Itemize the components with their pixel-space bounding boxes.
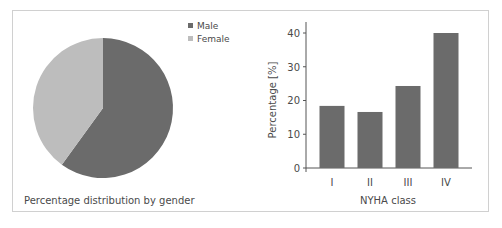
y-axis-label: Percentage [%] [267,62,278,139]
pie-caption: Percentage distribution by gender [24,195,195,206]
legend-swatch-female [188,36,193,41]
legend-swatch-male [188,23,193,28]
bar-III [396,86,421,168]
bars [320,33,459,168]
legend-label-female: Female [197,34,230,44]
bar-IV [434,33,459,168]
y-tick-label: 0 [294,163,300,174]
bar-I [320,106,345,168]
x-axis-label: NYHA class [360,195,416,206]
y-tick-label: 10 [287,129,300,140]
y-ticks: 0 10 20 30 40 [287,28,306,174]
pie-chart [33,38,173,178]
pie-legend: Male Female [188,21,230,44]
figure-canvas: Male Female Percentage distribution by g… [0,0,502,228]
y-tick-label: 30 [287,62,300,73]
bar-II [358,112,383,168]
x-tick-label: III [404,177,413,188]
y-tick-label: 40 [287,28,300,39]
x-tick-label: II [367,177,373,188]
x-tick-label: IV [441,177,451,188]
y-tick-label: 20 [287,95,300,106]
bar-chart: 0 10 20 30 40 I II III IV NYHA class Per… [267,22,472,206]
legend-label-male: Male [197,21,219,31]
x-tick-label: I [331,177,334,188]
